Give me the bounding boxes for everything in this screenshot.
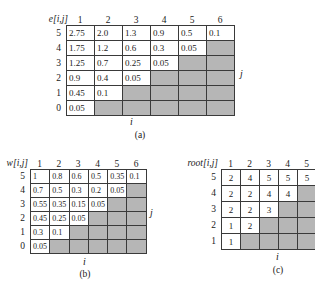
row-headers-e: 5 4 3 2 1 0 <box>48 25 64 115</box>
table-row: 1.75 1.2 0.6 0.3 0.05 <box>67 41 235 56</box>
table-cell: 0.05 <box>67 101 95 116</box>
panel-caption-b: (b) <box>73 269 97 279</box>
table-cell: 5 <box>260 170 279 186</box>
table-cell-empty <box>95 101 123 116</box>
column-header: 5 <box>107 159 126 169</box>
column-header: 6 <box>126 159 145 169</box>
table-cell: 0.9 <box>67 71 95 86</box>
column-header: 4 <box>88 159 107 169</box>
table-grid-e: 2.75 2.0 1.3 0.9 0.5 0.1 1.75 1.2 0.6 0.… <box>66 25 235 116</box>
table-cell: 0.05 <box>108 184 127 198</box>
table-cell-empty <box>127 198 146 212</box>
table-cell: 0.7 <box>95 56 123 71</box>
row-header: 4 <box>48 40 64 55</box>
table-cell-empty <box>179 86 207 101</box>
table-cell: 1.3 <box>123 26 151 41</box>
table-cell-empty <box>127 212 146 226</box>
column-header: 2 <box>94 15 122 25</box>
table-cell-empty <box>279 218 298 234</box>
table-cell: 0.9 <box>151 26 179 41</box>
table-row: 0.45 0.25 0.05 <box>31 212 147 226</box>
panel-caption-c: (c) <box>266 265 290 275</box>
column-header: 5 <box>178 15 206 25</box>
table-cell-empty <box>241 234 260 250</box>
axis-label-i: i <box>83 256 86 267</box>
table-cell-empty <box>298 218 315 234</box>
table-row: 0.05 <box>67 101 235 116</box>
table-cell: 0.05 <box>151 56 179 71</box>
column-header: 4 <box>278 159 297 169</box>
table-cell: 0.5 <box>89 170 108 184</box>
table-cell-empty <box>260 218 279 234</box>
column-header: 1 <box>66 15 94 25</box>
table-cell: 0.1 <box>127 170 146 184</box>
table-cell: 2.0 <box>95 26 123 41</box>
table-cell: 2 <box>241 202 260 218</box>
column-header: 1 <box>221 159 240 169</box>
table-cell-empty <box>123 86 151 101</box>
table-cell-empty <box>70 226 89 240</box>
table-cell: 0.3 <box>151 41 179 56</box>
table-cell-empty <box>179 56 207 71</box>
table-cell-empty <box>298 202 315 218</box>
row-header: 0 <box>48 100 64 115</box>
table-cell: 0.45 <box>67 86 95 101</box>
table-cell: 2 <box>241 186 260 202</box>
table-cell-empty <box>279 202 298 218</box>
panel-w-table: w[i,j] 1 2 3 4 5 6 5 4 3 2 1 0 1 0.8 0.6… <box>0 145 160 282</box>
row-header: 1 <box>48 85 64 100</box>
table-cell: 4 <box>279 186 298 202</box>
row-header: 3 <box>14 197 28 211</box>
table-row: 0.55 0.35 0.15 0.05 <box>31 198 147 212</box>
table-row: 1 2 <box>222 218 315 234</box>
column-header: 2 <box>240 159 259 169</box>
row-header: 2 <box>48 70 64 85</box>
table-cell: 1 <box>31 170 50 184</box>
table-cell: 0.05 <box>31 240 50 254</box>
axis-label-i: i <box>276 251 279 262</box>
row-header: 5 <box>205 169 219 185</box>
row-header: 1 <box>205 233 219 249</box>
table-cell-empty <box>298 234 315 250</box>
column-header: 1 <box>30 159 49 169</box>
table-row: 0.9 0.4 0.05 <box>67 71 235 86</box>
table-cell: 0.35 <box>50 198 69 212</box>
table-row: 2 2 4 4 <box>222 186 315 202</box>
table-cell: 2 <box>222 186 241 202</box>
table-cell-empty <box>89 226 108 240</box>
table-cell: 0.05 <box>89 198 108 212</box>
table-cell-empty <box>207 56 235 71</box>
table-cell: 0.1 <box>207 26 235 41</box>
table-grid-root: 2 4 5 5 5 2 2 4 4 2 2 3 1 2 <box>221 169 315 250</box>
table-row: 0.45 0.1 <box>67 86 235 101</box>
table-cell: 0.25 <box>50 212 69 226</box>
row-header: 2 <box>205 217 219 233</box>
table-cell: 0.1 <box>95 86 123 101</box>
table-cell-empty <box>123 101 151 116</box>
table-cell: 0.05 <box>70 212 89 226</box>
column-header: 3 <box>259 159 278 169</box>
panel-caption-a: (a) <box>128 130 152 140</box>
table-cell: 2.75 <box>67 26 95 41</box>
table-cell: 1 <box>222 218 241 234</box>
table-cell-empty <box>108 240 127 254</box>
table-cell: 0.5 <box>50 184 69 198</box>
panel-e-table: e[i,j] 1 2 3 4 5 6 5 4 3 2 1 0 2.75 2.0 … <box>0 0 315 145</box>
table-cell: 0.7 <box>31 184 50 198</box>
table-cell-empty <box>89 212 108 226</box>
table-cell-empty <box>127 240 146 254</box>
column-header: 6 <box>206 15 234 25</box>
table-cell: 5 <box>298 170 315 186</box>
axis-label-j: j <box>240 68 243 79</box>
table-row: 2.75 2.0 1.3 0.9 0.5 0.1 <box>67 26 235 41</box>
row-header: 5 <box>14 169 28 183</box>
table-cell: 0.1 <box>50 226 69 240</box>
table-cell: 2 <box>241 218 260 234</box>
table-cell-empty <box>108 212 127 226</box>
table-corner-label-e: e[i,j] <box>44 14 68 24</box>
table-cell: 0.05 <box>123 71 151 86</box>
table-row: 1 <box>222 234 315 250</box>
table-cell-empty <box>207 41 235 56</box>
row-header: 4 <box>205 185 219 201</box>
table-cell: 1.25 <box>67 56 95 71</box>
